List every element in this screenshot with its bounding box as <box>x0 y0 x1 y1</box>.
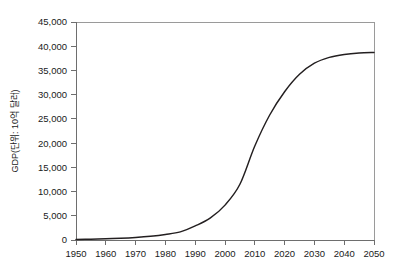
gdp-line-chart: 0 5,000 10,000 15,000 20,000 25,000 30,0… <box>0 0 397 276</box>
plot-area-frame <box>76 22 374 240</box>
x-tick-label: 2050 <box>363 248 384 259</box>
y-tick-label: 5,000 <box>43 210 67 221</box>
y-tick-label: 25,000 <box>38 113 67 124</box>
x-tick-label: 1970 <box>125 248 146 259</box>
x-tick-label: 1950 <box>65 248 86 259</box>
y-axis-ticks: 0 5,000 10,000 15,000 20,000 25,000 30,0… <box>38 16 76 245</box>
y-tick-label: 35,000 <box>38 65 67 76</box>
y-tick-label: 10,000 <box>38 186 67 197</box>
x-tick-label: 2010 <box>244 248 265 259</box>
x-tick-label: 2030 <box>304 248 325 259</box>
x-tick-label: 1990 <box>185 248 206 259</box>
x-tick-label: 2020 <box>274 248 295 259</box>
y-tick-label: 45,000 <box>38 16 67 27</box>
x-tick-label: 2040 <box>334 248 355 259</box>
y-tick-label: 0 <box>62 234 67 245</box>
x-tick-label: 2000 <box>214 248 235 259</box>
y-axis-title: GDP(단위: 10억 달러) <box>9 89 20 172</box>
y-tick-label: 30,000 <box>38 89 67 100</box>
x-tick-label: 1960 <box>95 248 116 259</box>
y-tick-label: 15,000 <box>38 162 67 173</box>
x-axis-ticks: 1950 1960 1970 1980 1990 2000 2010 2020 … <box>65 240 384 259</box>
y-tick-label: 20,000 <box>38 138 67 149</box>
x-tick-label: 1980 <box>155 248 176 259</box>
chart-canvas: 0 5,000 10,000 15,000 20,000 25,000 30,0… <box>0 0 397 276</box>
y-tick-label: 40,000 <box>38 41 67 52</box>
